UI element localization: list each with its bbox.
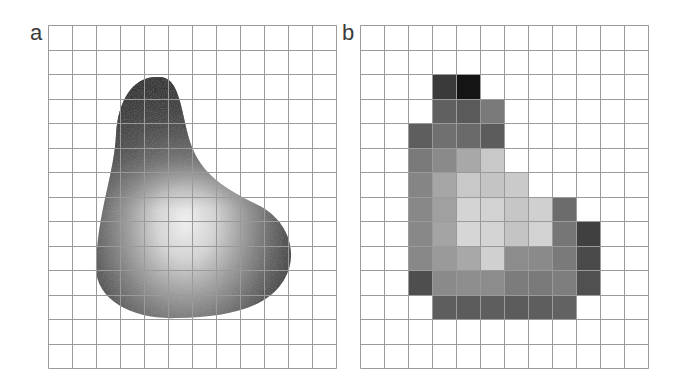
pixel-cell <box>433 100 457 125</box>
pixel-cell <box>553 296 577 321</box>
pixel-cell <box>481 149 505 174</box>
pixel-cell <box>553 198 577 223</box>
pixel-cell <box>577 222 601 247</box>
pixel-cell <box>433 149 457 174</box>
pixel-cell <box>481 124 505 149</box>
pixel-cell <box>481 222 505 247</box>
pixel-cell <box>457 198 481 223</box>
pixel-cell <box>433 296 457 321</box>
pixel-cell <box>433 124 457 149</box>
pixel-cell <box>577 247 601 272</box>
pixel-cell <box>481 271 505 296</box>
pixel-cell <box>457 75 481 100</box>
pixel-cell <box>577 271 601 296</box>
pixel-cell <box>505 247 529 272</box>
pixel-cell <box>433 75 457 100</box>
pixel-cell <box>481 247 505 272</box>
pixel-cell <box>457 271 481 296</box>
continuous-blob-figure <box>48 25 338 370</box>
pixel-cell <box>529 247 553 272</box>
panel-b-label: b <box>342 22 354 44</box>
pixel-cell <box>505 173 529 198</box>
pixel-cell <box>457 247 481 272</box>
pixel-cell <box>553 222 577 247</box>
pixel-cell <box>505 296 529 321</box>
panel-b-grid <box>360 25 650 370</box>
pixel-cell <box>481 198 505 223</box>
pixel-cell <box>409 271 433 296</box>
pixel-cell <box>409 124 433 149</box>
pixel-cell <box>553 271 577 296</box>
pixel-cell <box>481 100 505 125</box>
pixel-cell <box>505 222 529 247</box>
pixel-cell <box>409 247 433 272</box>
pixel-cell <box>433 198 457 223</box>
pixel-cell <box>529 198 553 223</box>
pixel-cell <box>481 296 505 321</box>
pixel-cell <box>505 271 529 296</box>
panel-a-label: a <box>30 22 42 44</box>
pixel-cell <box>433 173 457 198</box>
pixel-cell <box>457 296 481 321</box>
pixel-cell <box>457 124 481 149</box>
pixel-cell <box>529 271 553 296</box>
pixel-cell <box>433 222 457 247</box>
pixel-cell <box>505 198 529 223</box>
pixel-cell <box>529 222 553 247</box>
pixel-cell <box>409 149 433 174</box>
panel-a-grid <box>48 25 338 370</box>
pixel-cell <box>457 222 481 247</box>
pixel-cell <box>553 247 577 272</box>
pixel-cell <box>529 296 553 321</box>
pixel-cell <box>457 100 481 125</box>
pixel-cell <box>433 271 457 296</box>
pixel-cell <box>409 222 433 247</box>
pixel-cell <box>409 198 433 223</box>
pixelated-blob-figure <box>360 25 650 370</box>
pixel-cell <box>457 173 481 198</box>
pixel-cell <box>457 149 481 174</box>
pixel-cell <box>409 173 433 198</box>
pixel-cell <box>481 173 505 198</box>
pixel-cell <box>433 247 457 272</box>
